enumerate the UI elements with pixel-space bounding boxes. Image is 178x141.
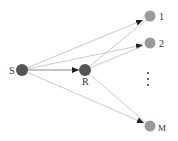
label-relay: R [82,76,89,87]
label-destination-m: M [158,123,166,133]
edge-s-1 [22,20,143,70]
node-destination-2 [145,38,156,49]
relay-network-diagram: S R 1 2 M [0,0,178,141]
label-destination-2: 2 [159,38,164,49]
edge-r-2 [85,46,143,70]
ellipsis-dots [147,72,149,86]
label-source: S [9,65,15,76]
edge-r-1 [85,21,145,70]
node-destination-1 [145,11,156,22]
label-destination-1: 1 [159,11,164,22]
edge-r-m [85,70,145,122]
node-destination-m [145,121,156,132]
node-source [16,64,28,76]
node-relay [79,64,91,76]
